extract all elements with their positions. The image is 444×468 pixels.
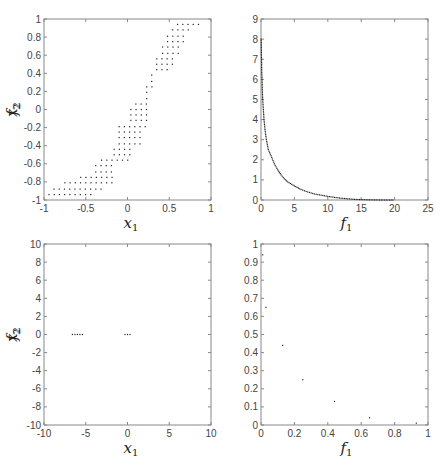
x-tick-label: 0.8: [388, 428, 402, 439]
y-tick-label: 0.8: [244, 275, 258, 286]
y-tick-label: 0.2: [27, 86, 41, 97]
y-tick-label: -8: [32, 401, 41, 412]
x-tick-label: -5: [81, 428, 90, 439]
y-tick-label: -0.2: [24, 122, 42, 133]
y-tick-label: 0.4: [27, 68, 41, 79]
y-axis-label: f2: [3, 104, 22, 117]
x-axis-label: f1: [340, 214, 353, 233]
x-tick-label: 0.5: [162, 203, 176, 214]
data-points: [261, 39, 394, 201]
y-tick-label: 6: [35, 275, 41, 286]
y-tick-label: 3: [252, 134, 258, 145]
y-tick-label: 0.4: [244, 347, 258, 358]
axes-frame: [261, 19, 428, 200]
y-tick-label: 8: [252, 34, 258, 45]
axes-frame: [44, 19, 211, 200]
y-tick-label: 0.2: [244, 383, 258, 394]
x-tick-label: 5: [166, 428, 172, 439]
y-tick-label: 0.5: [244, 329, 258, 340]
x-tick-label: 20: [389, 203, 401, 214]
y-tick-label: 5: [252, 94, 258, 105]
y-tick-label: 0.6: [244, 311, 258, 322]
y-tick-label: 7: [252, 54, 258, 65]
y-tick-label: -1: [32, 195, 41, 206]
y-tick-label: 6: [252, 74, 258, 85]
data-points: [262, 254, 417, 424]
data-points: [72, 334, 131, 335]
x-tick-label: 10: [205, 428, 217, 439]
figure-canvas: -1-0.500.51-1-0.8-0.6-0.4-0.200.20.40.60…: [0, 0, 444, 468]
y-tick-label: -6: [32, 383, 41, 394]
x-tick-label: 25: [422, 203, 434, 214]
x-axis-label: f1: [340, 439, 353, 458]
y-axis-label: f2: [3, 329, 22, 342]
x-axis-label: x1: [124, 439, 139, 458]
y-tick-label: 9: [252, 14, 258, 25]
y-tick-label: -0.4: [24, 140, 42, 151]
x-tick-label: 0.6: [354, 428, 368, 439]
x-tick-label: -0.5: [77, 203, 95, 214]
y-tick-label: 0: [252, 195, 258, 206]
y-tick-label: -10: [27, 420, 42, 431]
y-tick-label: 0.3: [244, 365, 258, 376]
x-axis-label: x1: [124, 214, 139, 233]
y-tick-label: 0.1: [244, 401, 258, 412]
x-tick-label: 0: [258, 203, 264, 214]
y-tick-label: 0.9: [244, 257, 258, 268]
y-tick-label: 10: [30, 239, 42, 250]
y-tick-label: 0: [252, 420, 258, 431]
data-points: [48, 24, 199, 195]
x-tick-label: 0: [258, 428, 264, 439]
x-tick-label: 1: [208, 203, 214, 214]
y-tick-label: -0.8: [24, 176, 42, 187]
y-tick-label: 2: [35, 311, 41, 322]
y-tick-label: 4: [35, 293, 41, 304]
y-tick-label: -4: [32, 365, 41, 376]
x-tick-label: 15: [356, 203, 368, 214]
y-tick-label: 0.6: [27, 50, 41, 61]
y-tick-label: 2: [252, 154, 258, 165]
y-tick-label: 4: [252, 114, 258, 125]
y-tick-label: 0: [35, 104, 41, 115]
x-tick-label: 0: [125, 428, 131, 439]
x-tick-label: 0.4: [321, 428, 335, 439]
y-tick-label: 1: [35, 14, 41, 25]
y-tick-label: 8: [35, 257, 41, 268]
y-tick-label: 0.7: [244, 293, 258, 304]
x-tick-label: 0.2: [287, 428, 301, 439]
axes-frame: [261, 244, 428, 425]
y-tick-label: 1: [252, 174, 258, 185]
y-tick-label: 0: [35, 329, 41, 340]
y-tick-label: 1: [252, 239, 258, 250]
y-tick-label: 0.8: [27, 32, 41, 43]
plot-decision-space-bottom: -10-50510-10-8-6-4-20246810x1x2: [3, 239, 217, 459]
y-tick-label: -2: [32, 347, 41, 358]
x-tick-label: 1: [425, 428, 431, 439]
y-tick-label: -0.6: [24, 158, 42, 169]
plot-decision-space-top: -1-0.500.51-1-0.8-0.6-0.4-0.200.20.40.60…: [3, 14, 214, 234]
x-tick-label: 5: [292, 203, 298, 214]
x-tick-label: 0: [125, 203, 131, 214]
x-tick-label: 10: [322, 203, 334, 214]
